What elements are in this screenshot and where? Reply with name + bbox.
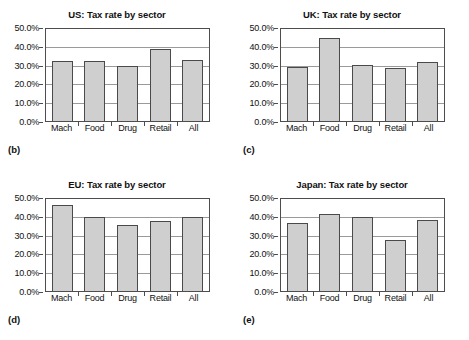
- y-tick-mark: [39, 84, 43, 85]
- chart-panel-uk: UK: Tax rate by sector0.0%10.0%20.0%30.0…: [235, 0, 469, 170]
- bar-slot: [79, 29, 112, 121]
- y-tick-mark: [39, 122, 43, 123]
- bar-drug: [117, 66, 138, 121]
- bar-slot: [346, 199, 379, 291]
- x-axis-uk: MachFoodDrugRetailAll: [280, 123, 445, 133]
- bar-all: [182, 60, 203, 121]
- y-tick-mark: [39, 273, 43, 274]
- bar-retail: [385, 240, 406, 291]
- y-tick-mark: [39, 103, 43, 104]
- bar-all: [417, 220, 438, 291]
- bar-group: [46, 199, 209, 291]
- y-tick-label: 10.0%: [249, 268, 274, 278]
- y-tick-label: 20.0%: [249, 249, 274, 259]
- panel-label-us: (b): [8, 144, 20, 155]
- x-tick-label: Retail: [144, 293, 177, 303]
- plot-area-japan: [280, 198, 445, 292]
- y-tick-label: 30.0%: [249, 61, 274, 71]
- y-tick-mark: [274, 122, 278, 123]
- bar-slot: [314, 199, 347, 291]
- chart-panel-us: US: Tax rate by sector0.0%10.0%20.0%30.0…: [0, 0, 234, 170]
- y-tick-mark: [274, 66, 278, 67]
- x-tick-label: Mach: [280, 123, 313, 133]
- bar-slot: [281, 29, 314, 121]
- x-tick-label: All: [412, 293, 445, 303]
- bar-drug: [352, 65, 373, 121]
- chart-title-us: US: Tax rate by sector: [0, 9, 234, 20]
- y-tick-label: 50.0%: [14, 23, 39, 33]
- x-tick-label: Retail: [379, 123, 412, 133]
- plot-area-eu: [45, 198, 210, 292]
- y-tick-label: 0.0%: [254, 117, 274, 127]
- chart-panel-japan: Japan: Tax rate by sector0.0%10.0%20.0%3…: [235, 170, 469, 340]
- bar-slot: [281, 199, 314, 291]
- bar-mach: [52, 61, 73, 121]
- chart-title-uk: UK: Tax rate by sector: [235, 9, 469, 20]
- x-axis-eu: MachFoodDrugRetailAll: [45, 293, 210, 303]
- x-tick-label: Food: [313, 293, 346, 303]
- y-tick-label: 0.0%: [19, 287, 39, 297]
- x-tick-label: Drug: [346, 123, 379, 133]
- y-tick-label: 0.0%: [19, 117, 39, 127]
- bar-drug: [117, 225, 138, 291]
- y-tick-label: 20.0%: [14, 249, 39, 259]
- y-tick-label: 50.0%: [249, 193, 274, 203]
- y-tick-mark: [39, 292, 43, 293]
- x-axis-japan: MachFoodDrugRetailAll: [280, 293, 445, 303]
- y-tick-mark: [274, 236, 278, 237]
- y-axis-us: 0.0%10.0%20.0%30.0%40.0%50.0%: [0, 28, 42, 122]
- x-tick-label: All: [177, 293, 210, 303]
- bar-drug: [352, 217, 373, 291]
- y-tick-label: 30.0%: [249, 231, 274, 241]
- bar-all: [417, 62, 438, 121]
- panel-label-japan: (e): [243, 314, 255, 325]
- y-tick-mark: [274, 103, 278, 104]
- y-tick-label: 40.0%: [14, 212, 39, 222]
- bar-retail: [385, 68, 406, 121]
- y-axis-eu: 0.0%10.0%20.0%30.0%40.0%50.0%: [0, 198, 42, 292]
- y-tick-mark: [39, 47, 43, 48]
- bar-food: [84, 217, 105, 291]
- chart-title-japan: Japan: Tax rate by sector: [235, 179, 469, 190]
- x-axis-us: MachFoodDrugRetailAll: [45, 123, 210, 133]
- y-tick-label: 10.0%: [14, 268, 39, 278]
- y-tick-mark: [39, 254, 43, 255]
- bar-food: [84, 61, 105, 121]
- bar-slot: [314, 29, 347, 121]
- bar-slot: [379, 29, 412, 121]
- bar-slot: [379, 199, 412, 291]
- bar-food: [319, 38, 340, 121]
- y-tick-label: 40.0%: [249, 212, 274, 222]
- y-axis-japan: 0.0%10.0%20.0%30.0%40.0%50.0%: [235, 198, 277, 292]
- bar-slot: [111, 29, 144, 121]
- y-tick-label: 0.0%: [254, 287, 274, 297]
- bar-slot: [46, 29, 79, 121]
- x-tick-label: Mach: [280, 293, 313, 303]
- y-axis-uk: 0.0%10.0%20.0%30.0%40.0%50.0%: [235, 28, 277, 122]
- panel-label-uk: (c): [243, 144, 255, 155]
- chart-title-eu: EU: Tax rate by sector: [0, 179, 234, 190]
- x-tick-label: All: [177, 123, 210, 133]
- x-tick-label: All: [412, 123, 445, 133]
- bar-slot: [176, 199, 209, 291]
- bar-group: [281, 29, 444, 121]
- y-tick-label: 20.0%: [249, 79, 274, 89]
- y-tick-label: 40.0%: [14, 42, 39, 52]
- bar-slot: [111, 199, 144, 291]
- y-tick-mark: [39, 66, 43, 67]
- bar-retail: [150, 49, 171, 121]
- x-tick-label: Drug: [346, 293, 379, 303]
- chart-panel-eu: EU: Tax rate by sector0.0%10.0%20.0%30.0…: [0, 170, 234, 340]
- x-tick-label: Retail: [144, 123, 177, 133]
- bar-retail: [150, 221, 171, 291]
- y-tick-mark: [39, 28, 43, 29]
- bar-slot: [176, 29, 209, 121]
- y-tick-label: 10.0%: [14, 98, 39, 108]
- y-tick-label: 50.0%: [14, 193, 39, 203]
- plot-area-uk: [280, 28, 445, 122]
- bar-group: [281, 199, 444, 291]
- y-tick-label: 30.0%: [14, 231, 39, 241]
- y-tick-mark: [274, 47, 278, 48]
- plot-area-us: [45, 28, 210, 122]
- bar-mach: [52, 205, 73, 291]
